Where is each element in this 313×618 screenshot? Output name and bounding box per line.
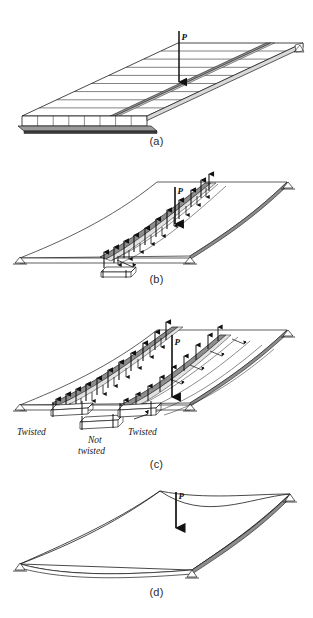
front-edge-c (20, 405, 190, 410)
panel-c: P (0, 315, 313, 470)
panel-b: P (b) (0, 160, 313, 295)
load-label-a: P (182, 32, 188, 42)
label-not-twisted-line2: twisted (78, 446, 105, 456)
caption-d: (d) (0, 586, 313, 598)
label-not-twisted-line1: Not (87, 435, 102, 445)
caption-a: (a) (0, 135, 313, 147)
panel-d: P (d) (0, 478, 313, 618)
label-twisted-right: Twisted (128, 427, 157, 437)
label-twisted-left: Twisted (17, 427, 46, 437)
element-not-twisted-c (80, 414, 123, 430)
plate-top-surface (22, 43, 303, 116)
figure-root: P (a) (0, 0, 313, 618)
load-label-d: P (179, 491, 185, 501)
caption-b: (b) (0, 273, 313, 285)
panel-a-drawing: P (0, 0, 313, 150)
panel-c-drawing: P (0, 315, 313, 470)
plate-edge-thickness (18, 116, 157, 134)
load-label-c: P (175, 337, 181, 347)
load-label-b: P (178, 186, 184, 196)
panel-a: P (a) (0, 0, 313, 150)
caption-c: (c) (0, 458, 313, 470)
